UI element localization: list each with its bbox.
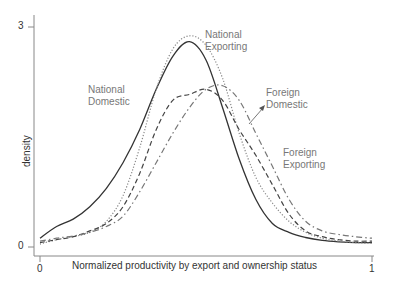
label-national-domestic: National Domestic: [88, 84, 130, 108]
label-foreign-exporting: Foreign Exporting: [283, 147, 325, 171]
x-axis-label: Normalized productivity by export and ow…: [72, 260, 317, 271]
label-foreign-domestic: Foreign Domestic: [266, 87, 308, 111]
label-national-exporting: National Exporting: [205, 29, 247, 53]
series-layer: [40, 36, 372, 244]
x-tick-label-right: 1: [369, 263, 375, 274]
series-national-exporting: [40, 36, 372, 244]
y-axis-label: density: [21, 135, 32, 167]
y-tick-label-top: 3: [18, 20, 24, 31]
density-chart: [0, 0, 393, 285]
x-tick-label-left: 0: [37, 263, 43, 274]
y-tick-label-bottom: 0: [18, 240, 24, 251]
foreign-domestic-arrow: [249, 108, 263, 124]
series-national-domestic: [40, 42, 372, 243]
arrow-head-icon: [259, 105, 265, 111]
